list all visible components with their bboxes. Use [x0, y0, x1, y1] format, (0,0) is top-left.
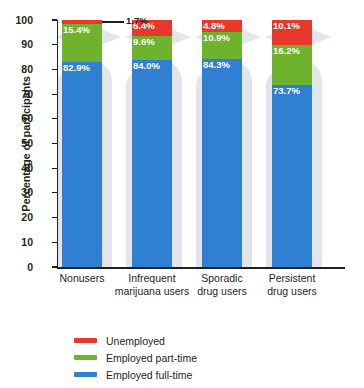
bar-segment[interactable]: 15.4%	[62, 24, 102, 62]
bar-segment-value-label: 16.2%	[273, 46, 300, 56]
legend-item[interactable]: Employed full-time	[74, 366, 197, 383]
bar-segment-value-label: 82.9%	[63, 63, 90, 73]
bar-segment-value-label: 73.7%	[273, 86, 300, 96]
y-axis-tick	[52, 69, 57, 70]
y-axis-line	[57, 20, 58, 267]
bar-stack[interactable]: 73.7%16.2%10.1%	[272, 20, 312, 267]
y-axis-tick	[52, 217, 57, 218]
legend-item[interactable]: Employed part-time	[74, 349, 197, 366]
y-axis-tick-label: 0	[0, 262, 33, 273]
bar-stack[interactable]: 84.0%9.6%6.4%	[132, 20, 172, 267]
y-axis-tick-label: 70	[0, 89, 33, 100]
callout-leader-line	[102, 21, 124, 22]
bar-segment-value-label: 15.4%	[63, 25, 90, 35]
bar-stack[interactable]: 82.9%15.4%	[62, 20, 102, 267]
bar-segment-value-label: 4.8%	[203, 21, 225, 31]
legend-color-swatch	[74, 355, 97, 360]
stacked-bar-chart-figure: Percentage of participants	[0, 0, 364, 388]
legend-item-label: Employed full-time	[106, 369, 192, 381]
legend-item-label: Employed part-time	[106, 352, 197, 364]
bar-segment[interactable]: 84.0%	[132, 60, 172, 267]
legend-color-swatch	[74, 372, 97, 377]
bar-segment[interactable]: 10.9%	[202, 32, 242, 59]
bar-segment[interactable]: 4.8%	[202, 20, 242, 32]
y-axis-tick-label: 30	[0, 187, 33, 198]
x-axis-line	[57, 267, 345, 269]
bar-segment[interactable]	[62, 20, 102, 24]
y-axis-tick	[52, 192, 57, 193]
y-axis-tick-label: 60	[0, 113, 33, 124]
y-axis-tick-label: 100	[0, 15, 33, 26]
y-axis-tick	[52, 94, 57, 95]
bar-segment-value-label: 10.9%	[203, 33, 230, 43]
y-axis-tick-label: 10	[0, 237, 33, 248]
y-axis-tick	[52, 19, 57, 20]
y-axis-tick	[52, 118, 57, 119]
plot-area: 0102030405060708090100 82.9%15.4%84.0%9.…	[57, 20, 345, 267]
y-axis-tick	[52, 168, 57, 169]
x-axis-tick-label-line: Persistent	[245, 272, 339, 285]
callout-value-label: 1.7%	[126, 16, 148, 26]
chart-legend: UnemployedEmployed part-timeEmployed ful…	[74, 332, 197, 383]
bar-segment[interactable]: 9.6%	[132, 36, 172, 60]
y-axis-tick	[52, 266, 57, 267]
bar-segment-value-label: 84.3%	[203, 60, 230, 70]
y-axis-tick	[52, 44, 57, 45]
y-axis-tick-label: 50	[0, 138, 33, 149]
y-axis-tick-label: 80	[0, 64, 33, 75]
bar-segment[interactable]: 16.2%	[272, 45, 312, 85]
y-axis-tick-label: 90	[0, 39, 33, 50]
bar-stack[interactable]: 84.3%10.9%4.8%	[202, 20, 242, 267]
y-axis-tick	[52, 242, 57, 243]
bar-segment-value-label: 10.1%	[273, 21, 300, 31]
x-axis-tick-label-line: drug users	[245, 285, 339, 298]
bar-segment[interactable]: 73.7%	[272, 85, 312, 267]
y-axis-tick	[52, 143, 57, 144]
y-axis-tick-label: 40	[0, 163, 33, 174]
bar-segment[interactable]: 82.9%	[62, 62, 102, 267]
bar-segment[interactable]: 10.1%	[272, 20, 312, 45]
bar-segment[interactable]: 84.3%	[202, 59, 242, 267]
x-axis-tick-label-group: NonusersInfrequentmarijuana usersSporadi…	[57, 272, 345, 308]
legend-color-swatch	[74, 338, 97, 343]
bar-segment-value-label: 9.6%	[133, 37, 155, 47]
bar-segment-value-label: 84.0%	[133, 61, 160, 71]
y-axis-tick-label: 20	[0, 212, 33, 223]
legend-item[interactable]: Unemployed	[74, 332, 197, 349]
x-axis-tick-label: Persistentdrug users	[245, 272, 339, 297]
legend-item-label: Unemployed	[106, 335, 165, 347]
